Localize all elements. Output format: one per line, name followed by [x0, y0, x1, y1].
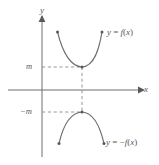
- upper-curve-vertex-point: [81, 66, 84, 69]
- math-figure: y x m −m y = f(x) y = −f(x): [0, 0, 159, 165]
- lower-curve-label: y = −f(x): [106, 138, 137, 147]
- y-axis: [39, 15, 46, 157]
- lower-curve-vertex-point: [81, 111, 84, 114]
- upper-curve-right-endpoint: [101, 31, 104, 34]
- x-axis: [8, 87, 145, 94]
- negative-m-tick-label: −m: [20, 107, 32, 116]
- m-tick-label: m: [26, 62, 32, 71]
- lower-curve-left-endpoint: [58, 142, 61, 145]
- y-axis-label: y: [40, 6, 44, 15]
- upper-curve-left-endpoint: [56, 31, 59, 34]
- lower-curve: [58, 111, 106, 146]
- x-axis-label: x: [144, 85, 148, 94]
- upper-curve-label: y = f(x): [107, 28, 133, 37]
- upper-curve: [56, 31, 104, 69]
- y-axis-arrowhead: [39, 15, 46, 22]
